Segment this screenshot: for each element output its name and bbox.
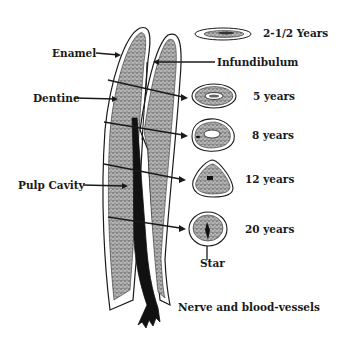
- label-age-20: 20 years: [245, 224, 294, 235]
- label-age-12: 12 years: [245, 174, 294, 185]
- cross-section-20-years: [189, 212, 227, 246]
- label-nerve: Nerve and blood-vessels: [178, 302, 320, 313]
- label-infundibulum: Infundibulum: [217, 57, 298, 68]
- cross-section-12-years: [193, 160, 233, 197]
- arrowhead-enamel: [115, 52, 121, 58]
- cross-section-2-5-years: [195, 28, 251, 40]
- section-arrowheads: [179, 94, 188, 232]
- label-age-2-5: 2-1/2 Years: [263, 28, 328, 39]
- label-pulp-cavity: Pulp Cavity: [18, 180, 85, 191]
- label-age-8: 8 years: [252, 130, 294, 141]
- tooth-longitudinal-section: [103, 27, 181, 328]
- cross-section-5-years: [192, 84, 236, 108]
- cross-section-8-years: [192, 119, 234, 151]
- label-enamel: Enamel: [52, 48, 96, 59]
- label-star: Star: [200, 258, 225, 269]
- label-age-5: 5 years: [253, 91, 295, 102]
- label-dentine: Dentine: [33, 93, 80, 104]
